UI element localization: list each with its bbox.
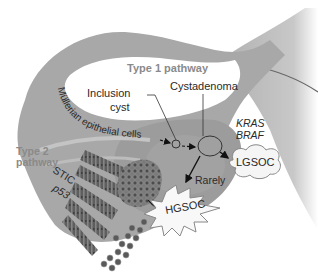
lgsoc-label: LGSOC — [236, 156, 275, 168]
type1-pathway-label: Type 1 pathway — [127, 62, 209, 74]
cystadenoma-shape — [198, 136, 222, 156]
inclusion-cyst-label-line2: cyst — [110, 101, 130, 113]
kras-label: KRAS — [236, 117, 265, 129]
braf-label: BRAF — [236, 129, 265, 141]
ovarian-pathway-diagram: Type 1 pathway Inclusion cyst Cystadenom… — [0, 0, 318, 276]
rarely-label: Rarely — [195, 174, 226, 186]
cystadenoma-label: Cystadenoma — [170, 80, 239, 92]
inclusion-cyst-label-line1: Inclusion — [87, 87, 130, 99]
type2-pathway-label-line2: pathway — [16, 156, 58, 168]
